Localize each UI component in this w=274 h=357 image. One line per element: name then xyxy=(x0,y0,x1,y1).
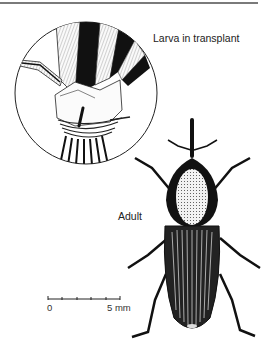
larva-inset xyxy=(15,22,157,165)
inset-caption: Larva in transplant xyxy=(153,32,239,44)
scale-min-label: 0 xyxy=(47,302,52,313)
figure-illustration xyxy=(0,0,274,357)
scale-max-label: 5 mm xyxy=(107,302,131,313)
scale-bar xyxy=(48,296,120,300)
adult-weevil xyxy=(128,118,260,337)
adult-caption: Adult xyxy=(118,210,142,222)
